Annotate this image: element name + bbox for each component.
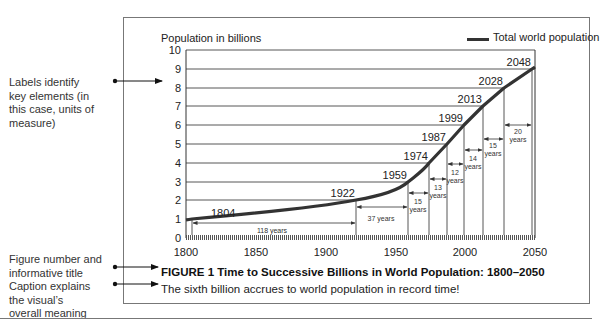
svg-text:1900: 1900 [314, 246, 338, 258]
svg-text:5: 5 [175, 138, 181, 150]
svg-text:1804: 1804 [211, 207, 235, 219]
svg-text:1974: 1974 [404, 150, 428, 162]
figure-caption: The sixth billion accrues to world popul… [161, 283, 460, 295]
svg-text:8: 8 [175, 82, 181, 94]
svg-text:years: years [464, 163, 482, 171]
svg-text:7: 7 [175, 100, 181, 112]
svg-text:2013: 2013 [458, 93, 482, 105]
svg-text:1800: 1800 [174, 246, 198, 258]
y-tick-labels: 1098 765 432 10 [169, 44, 181, 244]
svg-text:1: 1 [175, 213, 181, 225]
svg-text:1950: 1950 [384, 246, 408, 258]
svg-text:118 years: 118 years [257, 227, 288, 235]
svg-text:20: 20 [514, 128, 522, 135]
svg-text:15: 15 [414, 198, 422, 205]
svg-text:3: 3 [175, 176, 181, 188]
svg-text:1850: 1850 [244, 246, 268, 258]
svg-text:13: 13 [434, 184, 442, 191]
svg-text:9: 9 [175, 63, 181, 75]
svg-text:2048: 2048 [507, 56, 531, 68]
svg-text:15: 15 [489, 142, 497, 149]
svg-text:0: 0 [175, 232, 181, 244]
figure-title: FIGURE 1 Time to Successive Billions in … [161, 266, 545, 278]
svg-text:1959: 1959 [383, 169, 407, 181]
svg-text:37 years: 37 years [368, 215, 395, 223]
annotation-arrows [113, 79, 162, 286]
svg-text:2050: 2050 [523, 246, 547, 258]
svg-text:years: years [509, 136, 527, 144]
svg-text:years: years [446, 177, 464, 185]
svg-text:2028: 2028 [479, 75, 503, 87]
svg-text:years: years [409, 206, 427, 214]
x-tick-labels: 180018501900 195020002050 [174, 246, 547, 258]
svg-text:years: years [429, 192, 447, 200]
svg-text:1999: 1999 [439, 112, 463, 124]
svg-text:1987: 1987 [422, 131, 446, 143]
svg-text:2: 2 [175, 194, 181, 206]
svg-text:1922: 1922 [331, 187, 355, 199]
svg-text:12: 12 [451, 169, 459, 176]
x-axis-ruler [186, 235, 535, 240]
interval-arrows [193, 125, 531, 223]
svg-text:4: 4 [175, 157, 181, 169]
svg-text:14: 14 [469, 155, 477, 162]
svg-text:years: years [484, 150, 502, 158]
svg-text:6: 6 [175, 119, 181, 131]
svg-text:2000: 2000 [453, 246, 477, 258]
svg-text:10: 10 [169, 44, 181, 56]
